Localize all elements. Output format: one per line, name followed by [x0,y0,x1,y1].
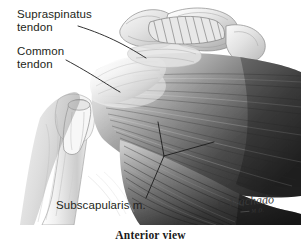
anatomical-figure: Supraspinatus tendon Common tendon Subsc… [0,0,301,251]
label-common-tendon-line1: Common [17,45,64,58]
label-supraspinatus-tendon: Supraspinatus tendon [17,8,92,33]
label-supraspinatus-line1: Supraspinatus [17,8,92,21]
shoulder-illustration [0,0,301,225]
label-supraspinatus-line2: tendon [17,21,92,34]
label-common-tendon: Common tendon [17,45,64,70]
label-subscapularis-muscle: Subscapularis m. [56,199,146,212]
label-common-tendon-line2: tendon [17,58,64,71]
signature-rule [240,211,249,213]
figure-caption: Anterior view [0,229,301,241]
artist-credential: M.D. [251,207,264,214]
artist-signature: C.Machado M.D. [217,192,275,216]
